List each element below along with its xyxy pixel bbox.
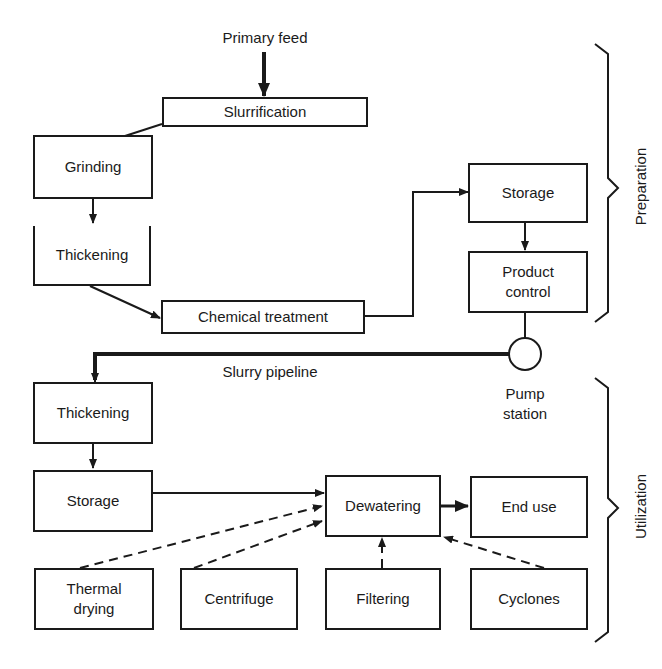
- node-slurrification[interactable]: Slurrification: [162, 97, 368, 127]
- edge-chemical-storage: [364, 192, 468, 316]
- edge-cyclones-dewatering: [444, 537, 544, 568]
- pump-station-label: Pump station: [490, 384, 560, 424]
- node-storage-prep[interactable]: Storage: [468, 163, 588, 223]
- node-product-control[interactable]: Product control: [468, 251, 588, 313]
- node-centrifuge[interactable]: Centrifuge: [180, 568, 298, 630]
- node-chemical-treatment[interactable]: Chemical treatment: [161, 300, 365, 334]
- primary-feed-label: Primary feed: [200, 28, 330, 48]
- utilization-section-label: Utilization: [632, 457, 649, 557]
- node-filtering[interactable]: Filtering: [325, 568, 441, 630]
- node-storage-util[interactable]: Storage: [33, 470, 153, 532]
- node-cyclones[interactable]: Cyclones: [470, 568, 588, 630]
- node-thickening-prep[interactable]: Thickening: [33, 226, 151, 286]
- node-thermal-drying[interactable]: Thermal drying: [34, 568, 154, 630]
- node-thickening-util[interactable]: Thickening: [33, 382, 153, 444]
- edge-thickening-chemical: [90, 286, 160, 318]
- node-dewatering[interactable]: Dewatering: [325, 475, 441, 537]
- node-end-use[interactable]: End use: [470, 476, 588, 538]
- utilization-brace: [595, 378, 618, 642]
- preparation-section-label: Preparation: [632, 137, 649, 237]
- preparation-brace: [595, 44, 618, 322]
- edge-centrifuge-dewatering: [194, 521, 322, 568]
- pump-station-icon: [509, 338, 541, 370]
- slurry-pipeline-label: Slurry pipeline: [200, 362, 340, 382]
- node-grinding[interactable]: Grinding: [33, 135, 153, 199]
